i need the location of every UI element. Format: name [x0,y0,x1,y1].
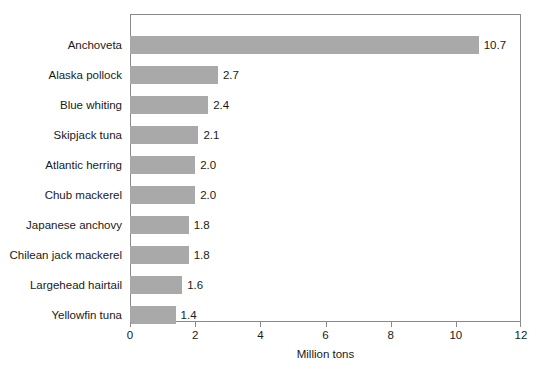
bar-value-label: 1.8 [189,216,210,234]
bar [130,36,479,54]
category-label: Japanese anchovy [26,210,122,240]
category-label: Yellowfin tuna [51,300,122,330]
category-label: Anchoveta [68,30,122,60]
x-axis: 024681012 Million tons [130,322,521,362]
bar [130,186,195,204]
bar [130,126,198,144]
x-tick-label: 8 [387,329,393,341]
bar-row: 2.0 [130,180,521,210]
x-tick-label: 10 [449,329,462,341]
category-label: Chub mackerel [45,180,122,210]
x-tick-mark [195,322,196,327]
x-tick-mark [130,322,131,327]
x-axis-title: Million tons [130,348,521,360]
bar-row: 1.8 [130,240,521,270]
bar [130,246,189,264]
category-label: Chilean jack mackerel [10,240,123,270]
bar-row: 2.7 [130,60,521,90]
x-tick-mark [456,322,457,327]
bar-value-label: 10.7 [479,36,506,54]
bar-row: 1.6 [130,270,521,300]
bar-value-label: 2.1 [198,126,219,144]
category-label: Largehead hairtail [30,270,122,300]
bar-row: 1.8 [130,210,521,240]
bar-value-label: 2.0 [195,156,216,174]
bar-value-label: 1.6 [182,276,203,294]
bar [130,66,218,84]
category-label: Atlantic herring [45,150,122,180]
figure-caption-sliver [8,366,228,373]
category-label: Skipjack tuna [54,120,122,150]
category-label: Blue whiting [60,90,122,120]
bar-chart-figure: 10.72.72.42.12.02.01.81.81.61.4 Anchovet… [0,0,543,373]
bar-value-label: 1.8 [189,246,210,264]
x-tick-label: 2 [192,329,198,341]
x-tick-label: 4 [257,329,263,341]
x-tick-mark [520,322,521,327]
x-tick-mark [260,322,261,327]
x-tick-label: 12 [515,329,528,341]
x-tick-label: 6 [322,329,328,341]
bar-value-label: 2.0 [195,186,216,204]
x-tick-mark [326,322,327,327]
bar [130,96,208,114]
bar-row: 10.7 [130,30,521,60]
bar-row: 2.1 [130,120,521,150]
bar [130,156,195,174]
category-label: Alaska pollock [48,60,122,90]
bar-row: 2.0 [130,150,521,180]
bar-row: 2.4 [130,90,521,120]
x-tick-mark [391,322,392,327]
bar [130,216,189,234]
bar [130,276,182,294]
bar-value-label: 2.7 [218,66,239,84]
x-tick-label: 0 [127,329,133,341]
bar-value-label: 2.4 [208,96,229,114]
